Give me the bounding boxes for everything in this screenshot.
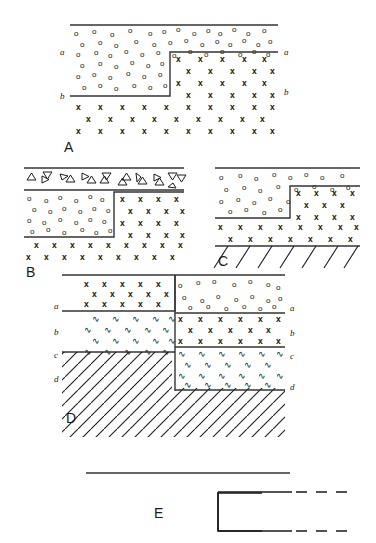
svg-text:x: x xyxy=(314,212,319,222)
svg-text:∿: ∿ xyxy=(224,360,232,370)
svg-text:x: x xyxy=(218,222,223,232)
svg-text:x: x xyxy=(198,54,203,64)
svg-text:x: x xyxy=(228,234,233,244)
panel-a-right-label-b: b xyxy=(284,87,289,97)
svg-text:∿: ∿ xyxy=(198,349,206,359)
svg-text:o: o xyxy=(58,215,63,224)
svg-text:o: o xyxy=(108,51,113,60)
svg-text:o: o xyxy=(114,84,119,93)
svg-text:x: x xyxy=(240,114,245,124)
panel-d-left-label-c: c xyxy=(54,350,58,360)
svg-text:o: o xyxy=(114,62,119,71)
svg-text:x: x xyxy=(170,252,175,262)
panel-d-right-label-d: d xyxy=(290,382,295,392)
svg-text:x: x xyxy=(288,234,293,244)
svg-text:o: o xyxy=(27,216,32,225)
svg-text:o: o xyxy=(30,227,35,236)
svg-text:o: o xyxy=(74,29,79,38)
svg-text:o: o xyxy=(219,197,224,206)
svg-text:o: o xyxy=(80,40,85,49)
svg-text:o: o xyxy=(128,26,133,35)
svg-text:x: x xyxy=(238,314,243,324)
svg-text:x: x xyxy=(350,212,355,222)
svg-text:x: x xyxy=(164,230,169,240)
svg-text:o: o xyxy=(256,40,261,49)
svg-text:o: o xyxy=(124,47,129,56)
svg-text:∿: ∿ xyxy=(92,314,100,324)
svg-text:o: o xyxy=(62,228,67,237)
svg-text:x: x xyxy=(176,78,181,88)
svg-text:o: o xyxy=(232,280,237,289)
svg-text:∿: ∿ xyxy=(124,325,132,335)
svg-text:x: x xyxy=(120,299,125,309)
svg-text:o: o xyxy=(276,283,281,292)
svg-text:o: o xyxy=(200,40,205,49)
svg-text:∿: ∿ xyxy=(276,371,284,381)
svg-text:∿: ∿ xyxy=(152,314,160,324)
svg-text:x: x xyxy=(174,194,179,204)
svg-text:o: o xyxy=(216,292,221,301)
svg-text:x: x xyxy=(26,252,31,262)
svg-text:x: x xyxy=(218,336,223,346)
svg-text:o: o xyxy=(168,38,173,47)
svg-text:x: x xyxy=(180,206,185,216)
svg-text:o: o xyxy=(80,225,85,234)
svg-text:x: x xyxy=(338,222,343,232)
svg-text:x: x xyxy=(120,218,125,228)
svg-text:o: o xyxy=(192,29,197,38)
svg-text:x: x xyxy=(174,218,179,228)
svg-text:∿: ∿ xyxy=(112,336,120,346)
svg-text:x: x xyxy=(98,102,103,112)
svg-text:x: x xyxy=(108,114,113,124)
svg-text:o: o xyxy=(304,170,309,179)
svg-text:x: x xyxy=(146,230,151,240)
svg-text:o: o xyxy=(148,29,153,38)
svg-text:o: o xyxy=(320,173,325,182)
svg-text:x: x xyxy=(130,114,135,124)
svg-text:o: o xyxy=(288,173,293,182)
svg-text:o: o xyxy=(44,196,49,205)
svg-text:x: x xyxy=(186,66,191,76)
svg-text:o: o xyxy=(272,170,277,179)
svg-text:x: x xyxy=(34,240,39,250)
svg-text:o: o xyxy=(268,37,273,46)
svg-text:x: x xyxy=(62,252,67,262)
svg-text:x: x xyxy=(138,299,143,309)
svg-text:o: o xyxy=(98,59,103,68)
svg-text:o: o xyxy=(262,26,267,35)
svg-text:o: o xyxy=(140,50,145,59)
svg-text:x: x xyxy=(88,240,93,250)
panel-d-left-label-b: b xyxy=(54,327,59,337)
svg-text:o: o xyxy=(236,195,241,204)
svg-text:x: x xyxy=(220,54,225,64)
svg-text:x: x xyxy=(138,279,143,289)
svg-text:x: x xyxy=(354,222,359,232)
svg-text:x: x xyxy=(208,126,213,136)
svg-text:x: x xyxy=(220,78,225,88)
panel-d-right-label-b: b xyxy=(290,328,295,338)
svg-text:x: x xyxy=(120,279,125,289)
svg-text:∿: ∿ xyxy=(162,325,170,335)
svg-text:∿: ∿ xyxy=(244,360,252,370)
svg-text:o: o xyxy=(48,207,53,216)
svg-text:x: x xyxy=(198,336,203,346)
svg-text:∿: ∿ xyxy=(144,325,152,335)
svg-text:o: o xyxy=(200,296,205,305)
svg-text:∿: ∿ xyxy=(204,360,212,370)
svg-text:o: o xyxy=(126,69,131,78)
svg-text:x: x xyxy=(178,336,183,346)
svg-text:o: o xyxy=(278,205,283,214)
svg-text:x: x xyxy=(152,252,157,262)
svg-text:o: o xyxy=(130,58,135,67)
svg-text:x: x xyxy=(262,78,267,88)
svg-text:x: x xyxy=(120,126,125,136)
panel-a-letter: A xyxy=(64,139,74,155)
svg-text:x: x xyxy=(164,206,169,216)
svg-text:∿: ∿ xyxy=(132,314,140,324)
svg-text:o: o xyxy=(80,61,85,70)
svg-text:o: o xyxy=(242,183,247,192)
panel-d-letter: D xyxy=(66,410,76,426)
svg-text:x: x xyxy=(188,325,193,335)
svg-text:x: x xyxy=(138,218,143,228)
svg-text:o: o xyxy=(248,277,253,286)
